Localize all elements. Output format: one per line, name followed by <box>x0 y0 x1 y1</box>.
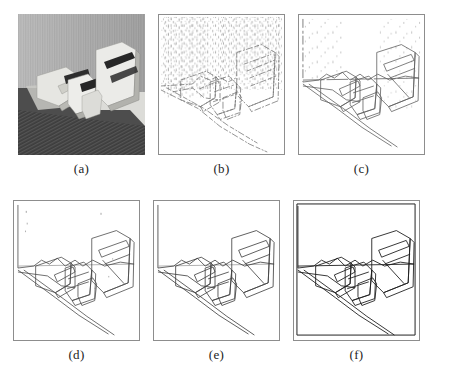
edge-map-render-d <box>14 201 139 340</box>
panel-b: (b) <box>158 14 285 175</box>
panel-a: (a) <box>18 14 145 175</box>
panel-e-caption: (e) <box>209 348 224 361</box>
panel-c-image <box>298 14 425 155</box>
edge-map-render-b <box>159 15 284 154</box>
panel-d-image <box>13 200 140 341</box>
panel-d-caption: (d) <box>68 348 84 361</box>
panel-b-caption: (b) <box>213 162 229 175</box>
panel-a-caption: (a) <box>74 162 89 175</box>
panel-d: (d) <box>13 200 140 361</box>
panel-f: (f) <box>293 200 420 361</box>
panel-f-image <box>293 200 420 341</box>
panel-b-image <box>158 14 285 155</box>
panel-e-image <box>153 200 280 341</box>
figure-panel-grid: (a) <box>0 0 458 371</box>
figure-row-top: (a) <box>18 14 458 175</box>
edge-map-render-f <box>294 201 419 340</box>
panel-a-image <box>18 14 145 155</box>
panel-c: (c) <box>298 14 425 175</box>
edge-map-render-c <box>299 15 424 154</box>
photograph-render <box>18 14 145 155</box>
panel-c-caption: (c) <box>354 162 369 175</box>
panel-e: (e) <box>153 200 280 361</box>
panel-f-caption: (f) <box>350 348 364 361</box>
figure-row-bottom: (d) <box>13 200 458 361</box>
edge-map-render-e <box>154 201 279 340</box>
